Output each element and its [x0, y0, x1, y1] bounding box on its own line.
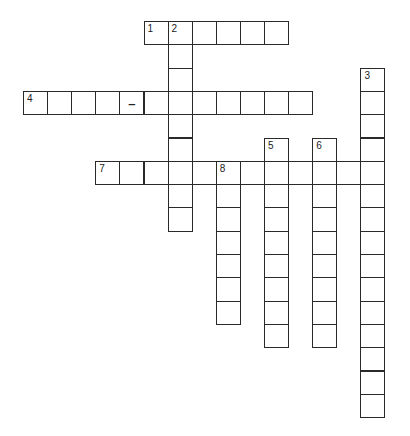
- crossword-cell[interactable]: [264, 161, 289, 185]
- crossword-cell[interactable]: [264, 277, 289, 301]
- crossword-cell[interactable]: [312, 184, 337, 208]
- crossword-cell[interactable]: [47, 91, 72, 115]
- crossword-cell[interactable]: [240, 91, 265, 115]
- crossword-cell[interactable]: [360, 207, 385, 231]
- crossword-cell[interactable]: [95, 91, 120, 115]
- clue-number: 2: [172, 23, 178, 34]
- crossword-cell[interactable]: [360, 324, 385, 348]
- crossword-cell[interactable]: [312, 161, 337, 185]
- crossword-cell[interactable]: [312, 207, 337, 231]
- crossword-cell[interactable]: [240, 21, 265, 45]
- crossword-cell[interactable]: [312, 231, 337, 255]
- crossword-cell[interactable]: [360, 347, 385, 371]
- crossword-cell[interactable]: 4: [23, 91, 48, 115]
- crossword-cell[interactable]: [360, 184, 385, 208]
- crossword-cell[interactable]: [312, 254, 337, 278]
- crossword-cell[interactable]: 1: [144, 21, 169, 45]
- crossword-cell[interactable]: [264, 91, 289, 115]
- crossword-cell[interactable]: [360, 161, 385, 185]
- crossword-cell[interactable]: [360, 394, 385, 418]
- crossword-cell[interactable]: [264, 254, 289, 278]
- crossword-cell[interactable]: [360, 371, 385, 395]
- crossword-cell[interactable]: [360, 254, 385, 278]
- crossword-cell[interactable]: [336, 161, 361, 185]
- crossword-cell[interactable]: [216, 21, 241, 45]
- crossword-cell[interactable]: [216, 301, 241, 325]
- crossword-cell[interactable]: [144, 161, 169, 185]
- crossword-cell[interactable]: [119, 161, 144, 185]
- crossword-cell[interactable]: [264, 207, 289, 231]
- crossword-grid: 1234–5678: [0, 0, 410, 436]
- crossword-cell[interactable]: [216, 231, 241, 255]
- crossword-cell[interactable]: [168, 91, 193, 115]
- crossword-cell[interactable]: [168, 44, 193, 68]
- clue-number: 1: [148, 23, 154, 34]
- crossword-cell[interactable]: [192, 91, 217, 115]
- crossword-cell[interactable]: [312, 324, 337, 348]
- crossword-cell[interactable]: [216, 277, 241, 301]
- crossword-cell[interactable]: [192, 161, 217, 185]
- crossword-cell[interactable]: [192, 21, 217, 45]
- crossword-cell[interactable]: [360, 301, 385, 325]
- crossword-cell[interactable]: [216, 254, 241, 278]
- crossword-cell[interactable]: [360, 277, 385, 301]
- clue-number: 7: [99, 163, 105, 174]
- crossword-cell[interactable]: [264, 184, 289, 208]
- crossword-cell[interactable]: –: [119, 91, 144, 115]
- crossword-cell[interactable]: [144, 91, 169, 115]
- crossword-cell[interactable]: [240, 161, 265, 185]
- crossword-cell[interactable]: [216, 207, 241, 231]
- crossword-cell[interactable]: [360, 91, 385, 115]
- crossword-cell[interactable]: [168, 138, 193, 162]
- crossword-cell[interactable]: [312, 277, 337, 301]
- crossword-cell[interactable]: [288, 91, 313, 115]
- crossword-cell[interactable]: [360, 114, 385, 138]
- clue-number: 6: [316, 140, 322, 151]
- crossword-cell[interactable]: [168, 114, 193, 138]
- crossword-cell[interactable]: 8: [216, 161, 241, 185]
- crossword-cell[interactable]: [168, 68, 193, 92]
- crossword-cell[interactable]: [264, 231, 289, 255]
- crossword-cell[interactable]: [264, 301, 289, 325]
- clue-number: 4: [27, 93, 33, 104]
- crossword-cell[interactable]: [216, 184, 241, 208]
- crossword-cell[interactable]: [168, 207, 193, 231]
- crossword-cell[interactable]: [216, 91, 241, 115]
- crossword-cell[interactable]: [264, 324, 289, 348]
- crossword-cell[interactable]: [312, 301, 337, 325]
- crossword-cell[interactable]: [168, 184, 193, 208]
- clue-number: 3: [364, 70, 370, 81]
- crossword-cell[interactable]: 2: [168, 21, 193, 45]
- crossword-cell[interactable]: [288, 161, 313, 185]
- hyphen-mark: –: [120, 96, 143, 111]
- crossword-cell[interactable]: 6: [312, 138, 337, 162]
- crossword-cell[interactable]: [71, 91, 96, 115]
- crossword-cell[interactable]: [264, 21, 289, 45]
- crossword-cell[interactable]: [360, 231, 385, 255]
- crossword-cell[interactable]: 7: [95, 161, 120, 185]
- crossword-cell[interactable]: 3: [360, 68, 385, 92]
- crossword-cell[interactable]: 5: [264, 138, 289, 162]
- crossword-cell[interactable]: [168, 161, 193, 185]
- crossword-cell[interactable]: [360, 138, 385, 162]
- clue-number: 5: [268, 140, 274, 151]
- clue-number: 8: [220, 163, 226, 174]
